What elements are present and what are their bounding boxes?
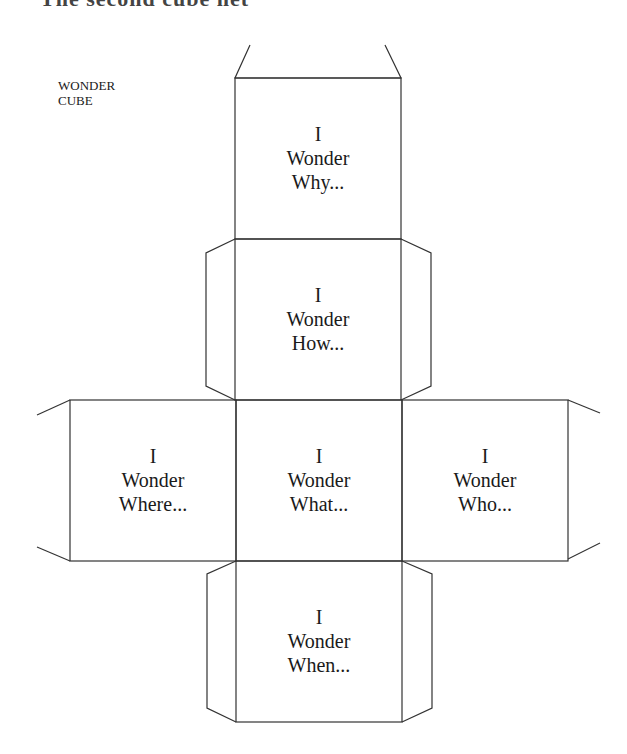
face-center: I Wonder What...: [236, 444, 402, 516]
face-left: I Wonder Where...: [70, 444, 236, 516]
face-upper: I Wonder How...: [235, 283, 401, 355]
upper-left-flap: [206, 239, 235, 400]
right-flap-top: [568, 400, 600, 413]
upper-right-flap: [401, 239, 431, 400]
face-bottom: I Wonder When...: [236, 605, 402, 677]
bottom-right-flap: [402, 561, 432, 722]
left-flap-top: [37, 400, 70, 415]
face-right: I Wonder Who...: [402, 444, 568, 516]
left-flap-bottom: [37, 547, 70, 561]
bottom-left-flap: [207, 561, 236, 722]
right-flap-bottom: [568, 543, 600, 559]
top-flap: [235, 45, 401, 78]
face-top: I Wonder Why...: [235, 122, 401, 194]
